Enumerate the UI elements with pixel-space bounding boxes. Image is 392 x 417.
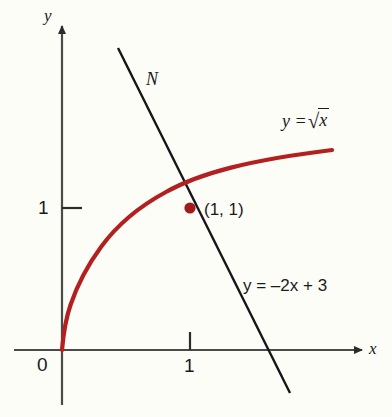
normal-line-equation-label: y = –2x + 3 <box>243 277 327 294</box>
graph-figure: y x 1 1 0 y =√x y = –2x + 3 (1, 1) N <box>0 0 392 417</box>
x-tick-label-1: 1 <box>184 356 195 375</box>
sqrt-curve <box>62 150 332 350</box>
normal-line <box>118 48 290 393</box>
y-axis-label: y <box>44 7 52 24</box>
intersection-point-marker <box>184 202 195 213</box>
normal-line-name-label: N <box>146 70 158 88</box>
y-tick-label-1: 1 <box>38 198 49 217</box>
plot-canvas <box>0 0 392 417</box>
x-axis-label: x <box>369 340 377 357</box>
square-root-icon: √x <box>307 110 330 131</box>
curve-equation-label: y =√x <box>282 110 329 131</box>
intersection-point-label: (1, 1) <box>204 201 244 218</box>
radicand: x <box>318 108 329 130</box>
curve-equation-prefix: y = <box>282 111 307 131</box>
origin-label: 0 <box>37 355 48 374</box>
